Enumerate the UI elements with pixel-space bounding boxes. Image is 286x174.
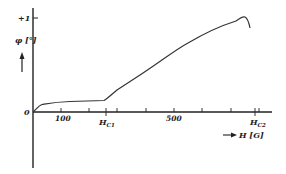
x-tick-label-hc2: HC2: [249, 117, 266, 128]
y-axis-title: φ [°]: [15, 35, 37, 45]
y-tick-label-zero: 0: [24, 107, 30, 117]
right-arrow-icon: [223, 133, 237, 138]
x-tick-label-hc1: HC1: [98, 117, 115, 128]
up-arrow-icon: [20, 52, 25, 72]
x-axis-title: H [G]: [238, 130, 264, 140]
x-tick-label-100: 100: [55, 114, 71, 123]
phase-vs-field-chart: +1 0 φ [°] 100 HC1 500 HC2 H [G]: [0, 0, 286, 174]
phase-curve: [33, 17, 250, 112]
x-tick-label-500: 500: [166, 114, 182, 123]
y-tick-label-plus1: +1: [18, 13, 30, 23]
